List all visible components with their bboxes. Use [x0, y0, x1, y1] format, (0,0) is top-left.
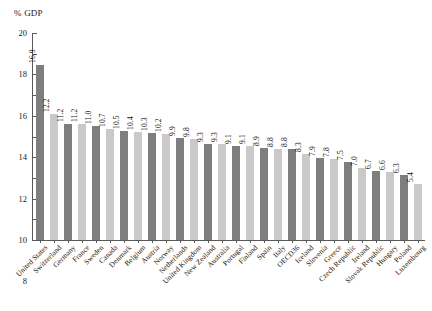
bar-slot: 11.0 — [92, 33, 101, 240]
bar-value-label: 9.1 — [237, 134, 246, 144]
bar-value-label: 6.7 — [363, 159, 372, 169]
bar-slot: 10.5 — [120, 33, 129, 240]
bar-value-label: 9.3 — [195, 132, 204, 142]
bar — [372, 171, 381, 240]
bar — [316, 158, 325, 240]
x-axis-category-labels: United StatesSwitzerlandGermanyFranceSwe… — [33, 243, 425, 311]
bar — [50, 114, 59, 240]
bar-value-label: 7.9 — [307, 146, 316, 156]
bar-slot: 7.9 — [316, 33, 325, 240]
bar-value-label: 6.3 — [391, 163, 400, 173]
bar — [218, 144, 227, 240]
bar — [36, 65, 45, 240]
bar — [120, 131, 129, 240]
bar-slot: 10.4 — [134, 33, 143, 240]
bar-value-label: 8.8 — [265, 137, 274, 147]
bar-slot: 16.9 — [36, 33, 45, 240]
bar-slot: 6.3 — [400, 33, 409, 240]
bar-value-label: 10.5 — [111, 116, 120, 130]
bar — [106, 129, 115, 240]
bar-slot: 7.5 — [344, 33, 353, 240]
bar-value-label: 7.5 — [335, 151, 344, 161]
y-axis-tick: 0 — [33, 240, 37, 241]
bar — [358, 168, 367, 240]
bar — [78, 124, 87, 240]
bar-slot: 10.7 — [106, 33, 115, 240]
bar-slot: 8.8 — [288, 33, 297, 240]
bar-value-label: 10.7 — [97, 114, 106, 128]
bar — [190, 139, 199, 240]
bar-value-label: 11.2 — [69, 109, 78, 122]
bar-value-label: 11.0 — [83, 111, 92, 124]
bar-value-label: 9.8 — [181, 127, 190, 137]
bar-value-label: 11.2 — [55, 109, 64, 122]
bar-value-label: 8.3 — [293, 142, 302, 152]
bar-value-label: 9.3 — [209, 132, 218, 142]
bar — [162, 134, 171, 240]
bar — [232, 146, 241, 240]
bar-value-label: 10.3 — [139, 118, 148, 132]
bar-slot: 6.7 — [372, 33, 381, 240]
bar-chart: % GDP 02468101214161820 16.912.211.211.2… — [0, 0, 432, 311]
bar — [204, 144, 213, 240]
bar-slot: 8.3 — [302, 33, 311, 240]
bar-slot: 12.2 — [50, 33, 59, 240]
bar — [288, 149, 297, 240]
bar-slot: 7.8 — [330, 33, 339, 240]
bar — [400, 175, 409, 240]
bar — [414, 184, 423, 240]
x-axis-line — [32, 240, 425, 241]
bar-value-label: 8.8 — [279, 137, 288, 147]
bar-value-label: 5.4 — [405, 172, 414, 182]
plot-area: 02468101214161820 16.912.211.211.211.010… — [33, 33, 425, 240]
bar-slot: 11.2 — [78, 33, 87, 240]
bar-value-label: 10.2 — [153, 119, 162, 133]
bar-value-label: 10.4 — [125, 117, 134, 131]
bar-slot: 6.6 — [386, 33, 395, 240]
bar-value-label: 12.2 — [41, 98, 50, 112]
bar — [64, 124, 73, 240]
y-axis-tick-label: 14 — [19, 152, 28, 162]
bar — [134, 132, 143, 240]
bar-value-label: 9.9 — [167, 126, 176, 136]
bar-slot: 5.4 — [414, 33, 423, 240]
bar — [344, 162, 353, 240]
y-axis-tick-label: 18 — [19, 69, 28, 79]
bar-value-label: 16.9 — [27, 49, 36, 63]
bar — [246, 146, 255, 240]
bar — [274, 149, 283, 240]
bar — [260, 148, 269, 240]
y-axis-tick-label: 10 — [19, 235, 28, 245]
bar-value-label: 7.8 — [321, 147, 330, 157]
bar — [148, 133, 157, 240]
y-axis-tick-label: 20 — [19, 28, 28, 38]
bar-slot: 11.2 — [64, 33, 73, 240]
bar — [330, 159, 339, 240]
bar-slot: 10.3 — [148, 33, 157, 240]
bar-slot: 10.2 — [162, 33, 171, 240]
y-axis-tick-label: 16 — [19, 111, 28, 121]
bar-value-label: 9.1 — [223, 134, 232, 144]
bar-value-label: 6.6 — [377, 160, 386, 170]
bar-value-label: 8.9 — [251, 136, 260, 146]
bar — [302, 154, 311, 240]
bar-series: 16.912.211.211.211.010.710.510.410.310.2… — [33, 33, 425, 240]
bar-slot: 7.0 — [358, 33, 367, 240]
bar — [176, 138, 185, 240]
y-axis-unit-label: % GDP — [14, 8, 43, 18]
bar — [386, 172, 395, 240]
bar — [92, 126, 101, 240]
bar-value-label: 7.0 — [349, 156, 358, 166]
y-axis-tick-label: 12 — [19, 194, 28, 204]
